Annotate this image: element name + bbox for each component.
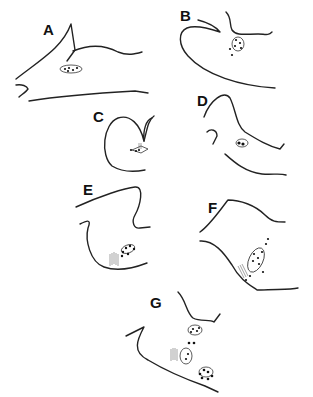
panel-c-drawing: [105, 116, 154, 171]
panel-f-drawing: [200, 200, 298, 290]
figure-drawing: [0, 0, 313, 397]
panel-e-drawing: [76, 187, 150, 269]
panel-a-drawing: [16, 24, 148, 101]
panel-g-drawing: [126, 292, 220, 392]
panel-d-drawing: [204, 95, 286, 175]
panel-b-drawing: [180, 12, 275, 88]
